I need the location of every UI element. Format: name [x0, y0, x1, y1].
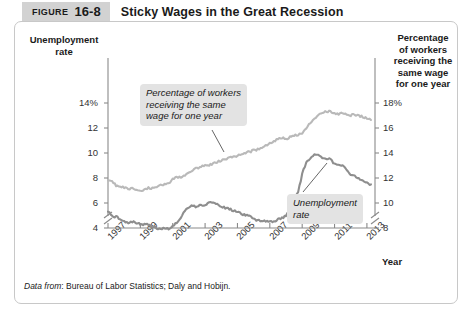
callout-sticky-wage: Percentage of workers receiving the same…	[140, 84, 247, 126]
source-note-prefix: Data from	[24, 281, 61, 291]
figure-root: FIGURE 16-8 Sticky Wages in the Great Re…	[0, 0, 472, 314]
source-note-text: : Bureau of Labor Statistics; Daly and H…	[61, 281, 230, 291]
source-note: Data from: Bureau of Labor Statistics; D…	[24, 281, 230, 291]
chart-plot	[0, 0, 472, 314]
callout-leader-wage	[212, 130, 224, 152]
callout-unemployment: Unemployment rate	[287, 194, 363, 224]
callout-leader-unemployment	[303, 163, 327, 192]
